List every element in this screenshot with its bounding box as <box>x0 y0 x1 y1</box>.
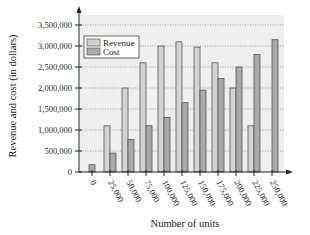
revenue-cost-bar-chart: 0500,0001,000,0001,500,0002,000,0002,500… <box>0 0 310 235</box>
y-tick-label: 500,000 <box>44 146 72 156</box>
revenue-bar <box>140 63 146 172</box>
y-tick-label: 2,500,000 <box>38 62 72 72</box>
cost-bar <box>236 67 242 172</box>
cost-bar <box>254 54 260 172</box>
cost-bar <box>200 90 206 172</box>
x-axis-title: Number of units <box>151 218 220 229</box>
y-tick-label: 1,000,000 <box>38 125 72 135</box>
x-tick-label: 25,000 <box>106 178 126 203</box>
legend: RevenueCost <box>84 36 139 58</box>
x-ticks: 025,00050,00075,000100,000125,000150,000… <box>88 170 290 207</box>
y-tick-label: 0 <box>68 167 72 177</box>
cost-bar <box>164 117 170 172</box>
revenue-bar <box>176 42 182 172</box>
cost-bar <box>128 139 134 172</box>
revenue-bar <box>230 88 236 172</box>
y-tick-label: 3,000,000 <box>38 41 72 51</box>
revenue-bar <box>104 126 110 172</box>
y-ticks: 0500,0001,000,0001,500,0002,000,0002,500… <box>38 20 82 177</box>
y-axis-arrow-icon <box>77 6 82 13</box>
y-axis-title: Revenue and cost (in dollars) <box>7 34 19 158</box>
y-tick-label: 1,500,000 <box>38 104 72 114</box>
revenue-bar <box>248 126 254 172</box>
cost-bar <box>110 153 116 172</box>
revenue-legend-swatch-icon <box>87 39 100 46</box>
x-tick-label: 50,000 <box>124 178 144 203</box>
revenue-bar <box>212 63 218 172</box>
cost-legend-swatch-icon <box>87 48 100 55</box>
cost-bar <box>146 126 152 172</box>
x-tick-label: 75,000 <box>142 178 162 203</box>
revenue-bar <box>158 46 164 172</box>
x-tick-label: 0 <box>88 178 99 186</box>
cost-bar <box>218 79 224 172</box>
cost-legend-label: Cost <box>103 47 120 57</box>
y-tick-label: 2,000,000 <box>38 83 72 93</box>
cost-bar <box>182 103 188 172</box>
x-axis-arrow-icon <box>286 170 293 175</box>
revenue-bar <box>194 47 200 172</box>
cost-bar <box>272 40 278 172</box>
revenue-bar <box>122 88 128 172</box>
x-tick-label: 250,000 <box>268 178 290 207</box>
y-tick-label: 3,500,000 <box>38 20 72 30</box>
